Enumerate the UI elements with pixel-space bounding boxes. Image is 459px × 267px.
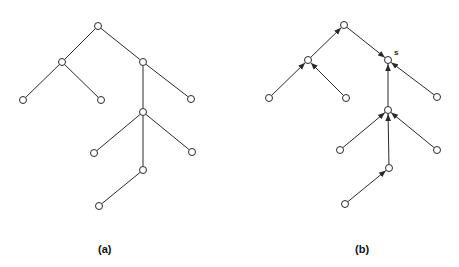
tree-node (337, 147, 344, 154)
tree-node (342, 201, 349, 208)
tree-edge (391, 62, 434, 94)
node-s-label: s (394, 48, 398, 57)
tree-edge (146, 64, 188, 96)
tree-edge (65, 28, 96, 59)
tree-node (96, 203, 103, 210)
tree-node (98, 97, 105, 104)
tree-edge (391, 113, 434, 148)
caption-a: (a) (98, 243, 111, 255)
tree-edge (102, 172, 140, 203)
tree-node (341, 22, 348, 29)
tree-edge (101, 28, 140, 59)
tree-node (140, 167, 147, 174)
tree-node (20, 97, 27, 104)
caption-b: (b) (355, 243, 369, 255)
tree-node (385, 107, 392, 114)
tree-edge (388, 114, 389, 165)
panel-b-directed-tree (266, 22, 441, 208)
tree-node (386, 165, 393, 172)
tree-node (189, 149, 196, 156)
tree-edge (311, 28, 342, 58)
tree-edge (272, 63, 306, 96)
tree-node (140, 109, 147, 116)
tree-edge (97, 114, 140, 150)
tree-node (434, 94, 441, 101)
tree-node (305, 57, 312, 64)
tree-edge (348, 171, 386, 202)
tree-node (385, 57, 392, 64)
tree-node (188, 96, 195, 103)
tree-edge (311, 63, 344, 96)
tree-node (91, 150, 98, 157)
tree-edge (26, 64, 60, 97)
tree-edge (343, 113, 385, 148)
tree-node (343, 95, 350, 102)
tree-node (59, 59, 66, 66)
tree-edge (146, 114, 189, 149)
tree-edge (65, 64, 99, 97)
tree-node (266, 95, 273, 102)
tree-edge (347, 27, 385, 57)
tree-diagram (0, 0, 459, 267)
tree-node (140, 59, 147, 66)
panel-a-undirected-tree (20, 23, 196, 210)
tree-node (434, 147, 441, 154)
tree-node (95, 23, 102, 30)
